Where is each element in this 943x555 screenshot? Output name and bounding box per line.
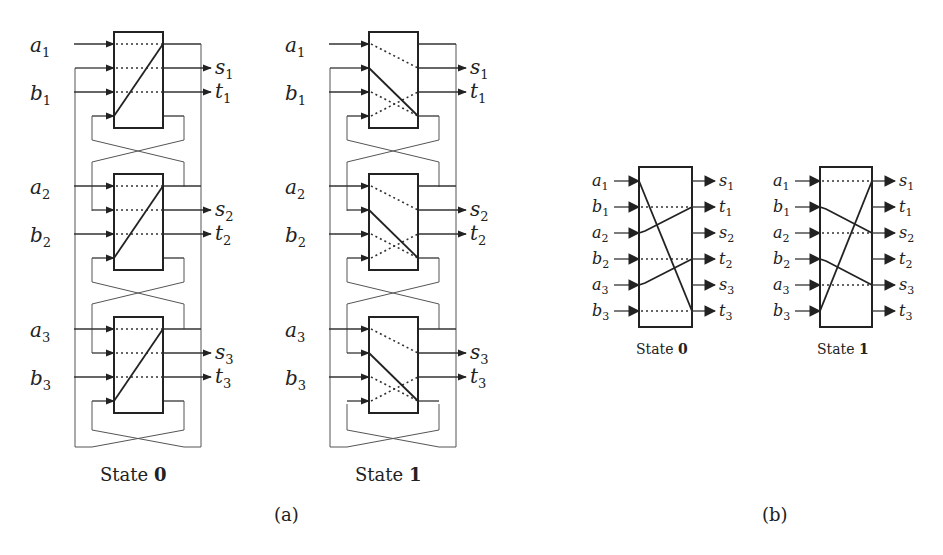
caption-b-state-0: State 0 — [636, 341, 688, 357]
svg-text:a2: a2 — [285, 175, 305, 202]
svg-text:s1: s1 — [470, 55, 489, 82]
svg-text:s2: s2 — [719, 223, 734, 245]
svg-text:s3: s3 — [719, 275, 734, 297]
svg-text:b1: b1 — [30, 81, 51, 108]
svg-text:t2: t2 — [470, 221, 486, 248]
svg-text:t1: t1 — [215, 79, 231, 106]
svg-text:t2: t2 — [719, 249, 732, 271]
svg-text:b3: b3 — [773, 301, 790, 323]
diagram-a-state-1: a1 b1 a2 b2 a3 b3 s1 t1 s2 t2 s3 t3 Stat… — [285, 32, 489, 485]
svg-text:t3: t3 — [719, 301, 732, 323]
svg-text:t3: t3 — [899, 301, 912, 323]
svg-text:a3: a3 — [285, 318, 305, 345]
svg-text:a2: a2 — [30, 175, 50, 202]
svg-text:s1: s1 — [899, 171, 914, 193]
svg-text:a3: a3 — [592, 275, 609, 297]
svg-text:t1: t1 — [719, 197, 732, 219]
svg-text:a2: a2 — [592, 223, 609, 245]
svg-text:b2: b2 — [592, 249, 609, 271]
subfigure-label-b: (b) — [762, 504, 788, 525]
svg-text:t3: t3 — [215, 364, 231, 391]
svg-text:s2: s2 — [899, 223, 914, 245]
svg-text:a1: a1 — [30, 33, 50, 60]
svg-text:b1: b1 — [592, 197, 609, 219]
svg-text:a1: a1 — [592, 171, 609, 193]
svg-text:b2: b2 — [30, 223, 51, 250]
svg-text:b3: b3 — [285, 366, 306, 393]
svg-text:b2: b2 — [285, 223, 306, 250]
svg-text:t2: t2 — [215, 221, 231, 248]
svg-text:a1: a1 — [285, 33, 305, 60]
svg-text:b1: b1 — [285, 81, 306, 108]
svg-text:s2: s2 — [215, 197, 234, 224]
svg-text:b3: b3 — [592, 301, 609, 323]
svg-text:b3: b3 — [30, 366, 51, 393]
svg-text:a1: a1 — [773, 171, 790, 193]
svg-text:b1: b1 — [773, 197, 790, 219]
caption-a-state-0: State 0 — [100, 464, 166, 485]
svg-text:s1: s1 — [215, 55, 234, 82]
svg-text:t3: t3 — [470, 364, 486, 391]
diagram-b-state-0: a1 b1 a2 b2 a3 b3 s1 t1 s2 t2 s3 t3 Stat… — [592, 167, 734, 357]
svg-text:b2: b2 — [773, 249, 790, 271]
svg-text:t1: t1 — [899, 197, 912, 219]
svg-text:a3: a3 — [30, 318, 50, 345]
svg-text:s3: s3 — [899, 275, 914, 297]
svg-text:t2: t2 — [899, 249, 912, 271]
svg-text:a3: a3 — [773, 275, 790, 297]
svg-text:s2: s2 — [470, 197, 489, 224]
figure-canvas: a1 b1 a2 b2 a3 b3 s1 t1 s2 t2 s3 t3 Stat… — [0, 0, 943, 555]
subfigure-label-a: (a) — [274, 504, 299, 525]
svg-text:a2: a2 — [773, 223, 790, 245]
svg-text:t1: t1 — [470, 79, 486, 106]
caption-b-state-1: State 1 — [817, 341, 869, 357]
svg-text:s3: s3 — [215, 340, 234, 367]
caption-a-state-1: State 1 — [355, 464, 421, 485]
diagram-b-state-1: a1 b1 a2 b2 a3 b3 s1 t1 s2 t2 s3 t3 Stat… — [773, 167, 914, 357]
svg-text:s1: s1 — [719, 171, 734, 193]
diagram-a-state-0: a1 b1 a2 b2 a3 b3 s1 t1 s2 t2 s3 t3 Stat… — [30, 32, 234, 485]
svg-text:s3: s3 — [470, 340, 489, 367]
